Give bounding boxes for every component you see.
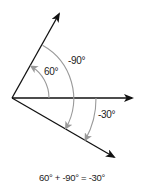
arc-neg30-degrees <box>86 98 97 140</box>
ray-neg30-degrees <box>12 98 114 157</box>
label-neg90-degrees: -90° <box>68 55 85 66</box>
label-neg30-degrees: -30° <box>98 109 115 120</box>
angle-diagram: 60° -90° -30° 60° + -90° = -30° <box>0 0 144 192</box>
label-60-degrees: 60° <box>44 66 58 77</box>
ray-60-degrees <box>12 14 59 98</box>
diagram-canvas <box>0 0 144 192</box>
equation-caption: 60° + -90° = -30° <box>0 172 144 183</box>
